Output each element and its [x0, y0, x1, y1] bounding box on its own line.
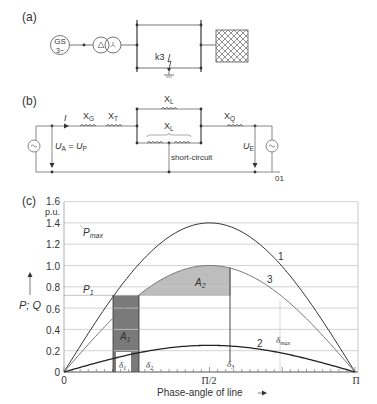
svg-text:XL: XL: [164, 94, 174, 105]
svg-text:P1: P1: [83, 284, 94, 296]
y-tick: 1.4: [46, 218, 60, 229]
y-tick: 1.2: [46, 239, 60, 250]
x-axis-arrow-icon: [262, 391, 267, 396]
svg-text:XL: XL: [164, 121, 174, 132]
generator-phase: 3~: [56, 47, 64, 54]
curve-1-label: 1: [278, 251, 284, 262]
voltage-ua-arrow-icon: [50, 163, 55, 168]
panel-a: (a) GS 3~ k3: [22, 10, 248, 77]
xl-bottom-sub: L: [170, 125, 174, 132]
svg-text:δ2: δ2: [146, 360, 153, 371]
xl-top-sub: L: [170, 98, 174, 105]
node-label: 01: [275, 174, 284, 183]
panel-b-label: (b): [22, 94, 37, 108]
svg-text:δmax: δmax: [276, 335, 291, 346]
generator-label: GS: [54, 37, 66, 46]
current-arrow-icon: [64, 124, 69, 129]
short-circuit-label: short-circuit: [171, 153, 213, 162]
y-tick: 0.4: [46, 325, 60, 336]
svg-text:UE: UE: [243, 141, 255, 152]
xt-sub: T: [114, 115, 118, 122]
panel-a-label: (a): [22, 10, 37, 24]
diagram-canvas: (a) GS 3~ k3: [0, 0, 377, 404]
load-network-icon: [216, 30, 248, 62]
svg-text:XG: XG: [83, 111, 94, 122]
svg-text:UA = UP: UA = UP: [55, 141, 87, 152]
y-tick: 1.0: [46, 261, 60, 272]
fault-label: k3: [155, 52, 165, 62]
current-label: I: [64, 113, 67, 123]
transformer-icon: [93, 37, 121, 53]
panel-b: (b) I XG XT XL XL short-circuit: [22, 94, 284, 183]
xg-sub: G: [89, 115, 94, 122]
x-tick: Π: [352, 375, 359, 386]
curve-3-label: 3: [267, 274, 273, 285]
area-a2: [138, 266, 231, 296]
panel-c-chart: (c) 0 0.2 0.4 0.6 0.8 1.0 1.2 1.: [19, 194, 360, 398]
unit-label: p.u.: [45, 207, 60, 217]
svg-text:Pmax: Pmax: [83, 227, 103, 239]
y-axis-label: P; Q: [19, 299, 41, 311]
svg-text:XQ: XQ: [224, 111, 235, 123]
y-tick: 0.6: [46, 304, 60, 315]
svg-text:XT: XT: [108, 111, 118, 122]
curve-2-label: 2: [257, 338, 263, 349]
generator-icon: GS 3~: [51, 36, 70, 55]
voltage-ue-arrow-icon: [253, 163, 258, 168]
x-tick: Π/2: [202, 375, 217, 386]
y-tick: 0.2: [46, 346, 60, 357]
xq-sub: Q: [230, 115, 235, 123]
x-tick: 0: [61, 375, 67, 386]
y-axis-arrow-icon: [28, 272, 33, 277]
lightning-icon: [168, 54, 171, 69]
ground-icon: [164, 72, 174, 77]
x-axis-label: Phase-angle of line: [157, 387, 243, 398]
svg-text:δ3: δ3: [227, 359, 234, 370]
y-tick: 1.6: [46, 196, 60, 207]
brace-icon: [147, 133, 191, 137]
curve-1: [64, 223, 355, 372]
panel-c-label: (c): [22, 194, 36, 208]
y-tick: 0: [54, 367, 60, 378]
y-tick: 0.8: [46, 282, 60, 293]
